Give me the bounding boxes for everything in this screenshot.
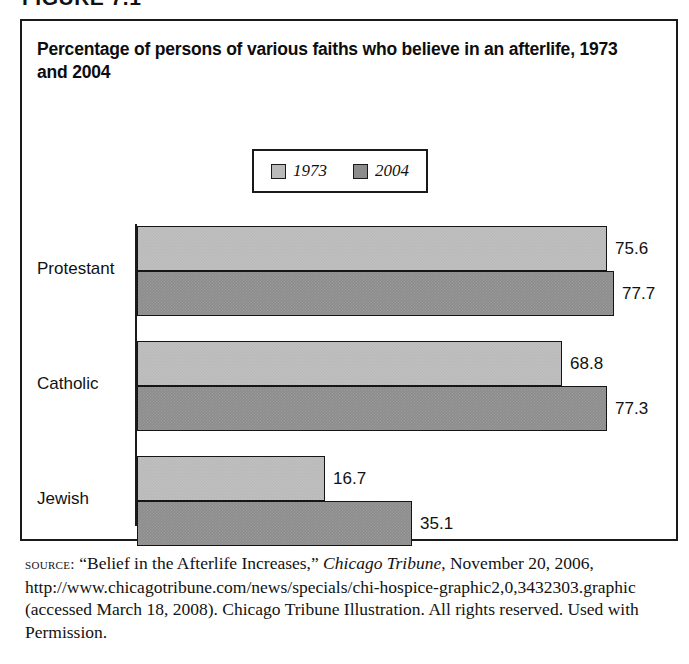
bar-catholic-2004 — [137, 386, 607, 431]
bar-group-catholic: Catholic 68.8 77.3 — [22, 341, 676, 431]
bar-group-protestant: Protestant 75.6 77.7 — [22, 226, 676, 316]
legend-entry-1973: 1973 — [271, 161, 327, 181]
bar-protestant-2004 — [137, 271, 614, 316]
bar-value-protestant-1973: 75.6 — [615, 239, 648, 259]
source-publication: Chicago Tribune — [323, 553, 441, 573]
category-label-protestant: Protestant — [37, 259, 115, 279]
source-label: source: — [25, 555, 75, 572]
source-note: source: “Belief in the Afterlife Increas… — [25, 552, 677, 643]
legend-entry-2004: 2004 — [353, 161, 409, 181]
bar-protestant-1973 — [137, 226, 607, 271]
legend-swatch-1973 — [271, 164, 286, 179]
chart-legend: 1973 2004 — [252, 149, 428, 193]
figure-container: Percentage of persons of various faiths … — [20, 19, 678, 541]
category-label-jewish: Jewish — [37, 489, 89, 509]
bar-group-jewish: Jewish 16.7 35.1 — [22, 456, 676, 546]
legend-label-1973: 1973 — [293, 161, 327, 181]
legend-label-2004: 2004 — [375, 161, 409, 181]
bar-value-jewish-1973: 16.7 — [333, 469, 366, 489]
bar-value-catholic-1973: 68.8 — [570, 354, 603, 374]
bar-value-protestant-2004: 77.7 — [622, 284, 655, 304]
bar-jewish-1973 — [137, 456, 325, 501]
bar-jewish-2004 — [137, 501, 412, 546]
legend-swatch-2004 — [353, 164, 368, 179]
bar-catholic-1973 — [137, 341, 562, 386]
source-text-before: “Belief in the Afterlife Increases,” — [75, 553, 323, 573]
bar-value-catholic-2004: 77.3 — [615, 399, 648, 419]
figure-caption: FIGURE 7.1 — [22, 0, 141, 10]
category-label-catholic: Catholic — [37, 374, 98, 394]
chart-title: Percentage of persons of various faiths … — [37, 38, 637, 84]
plot-area: Protestant 75.6 77.7 Catholic 68.8 77.3 … — [22, 216, 676, 536]
bar-value-jewish-2004: 35.1 — [420, 514, 453, 534]
